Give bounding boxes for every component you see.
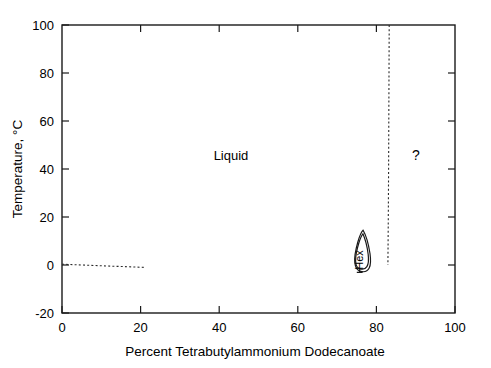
lower-phase-boundary-dashed <box>62 264 145 267</box>
x-tick-label-60: 60 <box>291 320 305 335</box>
y-axis-title: Temperature, °C <box>10 120 25 219</box>
x-tick-label-80: 80 <box>369 320 383 335</box>
y-tick-label-40: 40 <box>40 162 54 177</box>
x-tick-label-40: 40 <box>212 320 226 335</box>
y-tick-label-100: 100 <box>32 18 54 33</box>
y-tick-label-0: 0 <box>47 258 54 273</box>
y-tick-label--20: -20 <box>35 306 54 321</box>
y-tick-label-80: 80 <box>40 66 54 81</box>
y-tick-label-60: 60 <box>40 114 54 129</box>
plot-frame <box>62 25 455 313</box>
liquid-region-label: Liquid <box>214 148 249 163</box>
hex-region-label: Hex <box>353 250 365 270</box>
x-axis-ticks <box>62 306 455 313</box>
unknown-region-label: ? <box>412 147 420 163</box>
x-axis-ticks-top <box>141 25 377 32</box>
phase-diagram-svg: -20 0 20 40 60 80 100 0 20 40 60 80 100 … <box>0 0 491 368</box>
x-tick-label-20: 20 <box>133 320 147 335</box>
y-axis-ticks <box>62 25 69 313</box>
y-axis-ticks-right <box>448 73 455 265</box>
x-tick-label-100: 100 <box>444 320 466 335</box>
y-tick-label-20: 20 <box>40 210 54 225</box>
vertical-boundary-dashed <box>388 25 389 265</box>
x-tick-label-0: 0 <box>58 320 65 335</box>
x-axis-title: Percent Tetrabutylammonium Dodecanoate <box>125 344 384 359</box>
phase-diagram-figure: -20 0 20 40 60 80 100 0 20 40 60 80 100 … <box>0 0 491 368</box>
